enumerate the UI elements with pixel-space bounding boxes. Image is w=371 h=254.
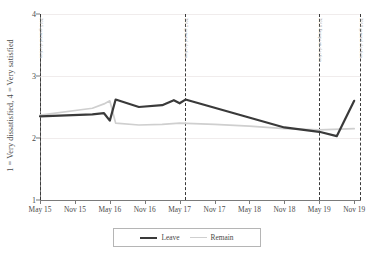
x-tick-label: Nov 15 bbox=[64, 205, 86, 214]
x-tick-label: May 17 bbox=[168, 205, 191, 214]
event-marker-line: 2019 general election bbox=[360, 14, 361, 200]
series-lines bbox=[40, 14, 360, 200]
x-tick-mark bbox=[215, 200, 216, 204]
x-tick-label: Nov 17 bbox=[204, 205, 226, 214]
y-axis-title: 1 = Very dissatisfied, 4 = Very satisfie… bbox=[2, 0, 18, 210]
x-tick-mark bbox=[110, 200, 111, 204]
x-tick-label: May 16 bbox=[98, 205, 121, 214]
chart-container: 1 = Very dissatisfied, 4 = Very satisfie… bbox=[0, 0, 371, 254]
x-tick-label: Nov 16 bbox=[134, 205, 156, 214]
legend-item-leave: Leave bbox=[140, 233, 179, 242]
x-tick-label: May 18 bbox=[238, 205, 261, 214]
x-tick-mark bbox=[249, 200, 250, 204]
x-tick-mark bbox=[319, 200, 320, 204]
x-tick-mark bbox=[284, 200, 285, 204]
legend-label-leave: Leave bbox=[161, 233, 179, 242]
x-tick-mark bbox=[180, 200, 181, 204]
plot-area: 1234 2015 general election2017 general e… bbox=[40, 14, 360, 200]
legend-label-remain: Remain bbox=[211, 233, 234, 242]
x-tick-label: May 19 bbox=[308, 205, 331, 214]
legend-swatch-remain bbox=[190, 237, 207, 238]
series-line-leave bbox=[40, 100, 354, 137]
x-tick-mark bbox=[40, 200, 41, 204]
x-tick-mark bbox=[75, 200, 76, 204]
x-tick-mark bbox=[145, 200, 146, 204]
x-tick-label: Nov 18 bbox=[273, 205, 295, 214]
x-tick-label: May 15 bbox=[29, 205, 52, 214]
legend-swatch-leave bbox=[140, 237, 157, 239]
chart-legend: Leave Remain bbox=[113, 228, 261, 247]
legend-item-remain: Remain bbox=[190, 233, 234, 242]
x-tick-mark bbox=[354, 200, 355, 204]
x-axis-line bbox=[40, 200, 361, 201]
x-tick-label: Nov 19 bbox=[343, 205, 365, 214]
